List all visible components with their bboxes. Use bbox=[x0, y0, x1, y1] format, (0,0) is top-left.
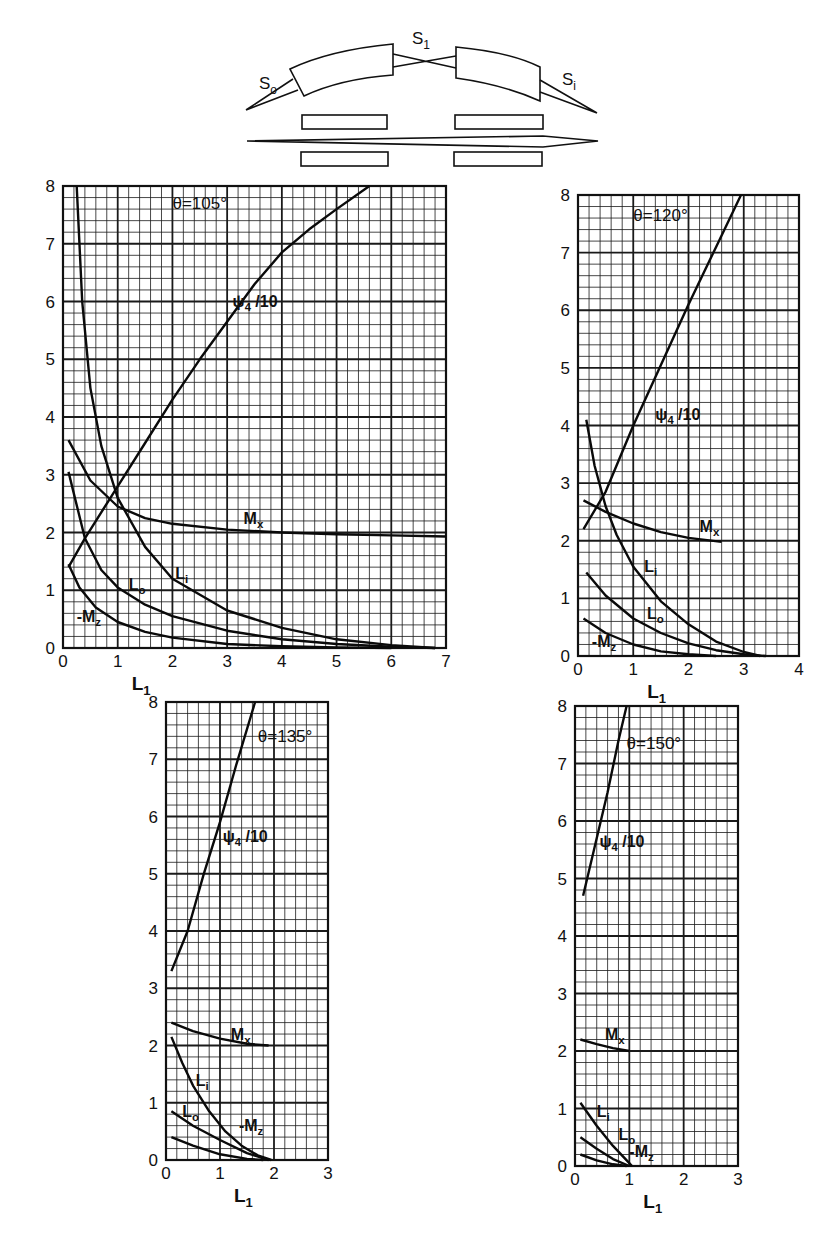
chart-title: θ=150° bbox=[627, 734, 682, 753]
x-tick-labels: 0123 bbox=[161, 1164, 332, 1183]
y-tick: 3 bbox=[561, 474, 570, 493]
y-tick: 1 bbox=[149, 1094, 158, 1113]
figure: So S1 Si 01234567012345678L1ψ4 /10LiMxLo… bbox=[0, 0, 837, 1237]
x-tick: 6 bbox=[387, 652, 396, 671]
series-label-l-i: Li bbox=[175, 565, 188, 585]
chart-theta-120: 01234012345678L1ψ4 /10LiMxLo-Mzθ=120° bbox=[561, 186, 804, 706]
curve-mz bbox=[580, 1155, 626, 1167]
label-middle: S1 bbox=[412, 29, 430, 52]
series-label-4-10: ψ4 /10 bbox=[599, 833, 644, 853]
y-tick: 8 bbox=[561, 186, 570, 205]
x-axis-label: L1 bbox=[234, 1185, 253, 1210]
y-tick: 6 bbox=[558, 812, 567, 831]
y-tick: 6 bbox=[149, 808, 158, 827]
y-tick: 4 bbox=[561, 417, 570, 436]
x-tick-labels: 01234 bbox=[573, 660, 803, 679]
y-tick-labels: 012345678 bbox=[558, 697, 567, 1176]
series-label-4-10: ψ4 /10 bbox=[223, 828, 268, 848]
x-axis-label: L1 bbox=[647, 681, 666, 706]
y-tick: 4 bbox=[149, 922, 158, 941]
series-label-mx: Mx bbox=[244, 510, 264, 530]
grid bbox=[575, 706, 738, 1166]
x-tick: 3 bbox=[222, 652, 231, 671]
series-label-mz: -Mz bbox=[629, 1143, 654, 1163]
x-tick: 1 bbox=[625, 1170, 634, 1189]
y-tick-labels: 012345678 bbox=[561, 186, 570, 666]
grid bbox=[63, 186, 446, 648]
chart-title: θ=135° bbox=[258, 727, 313, 746]
y-tick: 8 bbox=[46, 177, 55, 196]
chart-title: θ=120° bbox=[633, 206, 688, 225]
left-magnet-sector bbox=[290, 44, 393, 96]
chart-theta-105: 01234567012345678L1ψ4 /10LiMxLo-Mzθ=105° bbox=[46, 177, 451, 698]
y-tick: 7 bbox=[561, 244, 570, 263]
chart-title: θ=105° bbox=[172, 194, 227, 213]
grid bbox=[166, 702, 328, 1160]
x-tick: 0 bbox=[161, 1164, 170, 1183]
series-label-4-10: ψ4 /10 bbox=[655, 406, 700, 426]
x-tick: 1 bbox=[113, 652, 122, 671]
series-label-l-o: Lo bbox=[129, 576, 146, 596]
y-tick: 0 bbox=[558, 1157, 567, 1176]
lens-upper-right bbox=[455, 115, 543, 129]
x-tick: 2 bbox=[168, 652, 177, 671]
y-tick: 6 bbox=[561, 301, 570, 320]
series-label-l-i: Li bbox=[196, 1072, 209, 1092]
x-tick: 4 bbox=[277, 652, 286, 671]
series-label-mx: Mx bbox=[700, 518, 720, 538]
y-tick-labels: 012345678 bbox=[149, 693, 158, 1170]
x-axis-label: L1 bbox=[643, 1191, 662, 1216]
chart-theta-135: 0123012345678L1ψ4 /10LiMxLo-Mzθ=135° bbox=[149, 693, 333, 1210]
curve-l-i bbox=[586, 420, 760, 656]
series-label-4-10: ψ4 /10 bbox=[233, 293, 278, 313]
x-tick: 2 bbox=[684, 660, 693, 679]
y-tick: 7 bbox=[46, 235, 55, 254]
x-tick-labels: 0123 bbox=[570, 1170, 742, 1189]
y-tick-labels: 012345678 bbox=[46, 177, 55, 658]
x-tick-labels: 01234567 bbox=[58, 652, 450, 671]
label-source: So bbox=[259, 74, 277, 97]
y-tick: 3 bbox=[46, 466, 55, 485]
x-tick: 5 bbox=[332, 652, 341, 671]
x-tick: 1 bbox=[629, 660, 638, 679]
y-tick: 4 bbox=[46, 408, 55, 427]
y-tick: 5 bbox=[561, 359, 570, 378]
lens-lower-right bbox=[454, 152, 542, 166]
x-tick: 0 bbox=[58, 652, 67, 671]
x-tick: 1 bbox=[215, 1164, 224, 1183]
label-image: Si bbox=[562, 70, 576, 93]
series-label-mz: -Mz bbox=[77, 608, 102, 628]
y-tick: 0 bbox=[46, 639, 55, 658]
series-label-mz: -Mz bbox=[239, 1117, 264, 1137]
series-label-l-o: Lo bbox=[647, 605, 664, 625]
x-tick: 2 bbox=[269, 1164, 278, 1183]
y-tick: 1 bbox=[46, 581, 55, 600]
y-tick: 8 bbox=[149, 693, 158, 712]
y-tick: 2 bbox=[149, 1037, 158, 1056]
right-magnet-sector bbox=[456, 47, 540, 101]
y-tick: 1 bbox=[558, 1100, 567, 1119]
x-tick: 4 bbox=[794, 660, 803, 679]
spectrometer-schematic bbox=[246, 44, 598, 166]
y-tick: 7 bbox=[149, 750, 158, 769]
grid bbox=[578, 195, 799, 656]
x-tick: 0 bbox=[570, 1170, 579, 1189]
optical-axis-ray bbox=[247, 136, 598, 147]
y-tick: 5 bbox=[46, 350, 55, 369]
x-tick: 7 bbox=[441, 652, 450, 671]
chart-theta-150: 0123012345678L1ψ4 /10LiMxLo-Mzθ=150° bbox=[558, 697, 743, 1216]
y-tick: 0 bbox=[561, 647, 570, 666]
y-tick: 0 bbox=[149, 1151, 158, 1170]
x-tick: 3 bbox=[739, 660, 748, 679]
y-tick: 5 bbox=[149, 865, 158, 884]
y-tick: 5 bbox=[558, 870, 567, 889]
y-tick: 2 bbox=[558, 1042, 567, 1061]
y-tick: 4 bbox=[558, 927, 567, 946]
x-tick: 0 bbox=[573, 660, 582, 679]
x-tick: 3 bbox=[733, 1170, 742, 1189]
y-tick: 2 bbox=[46, 524, 55, 543]
crossover-ray bbox=[393, 54, 456, 68]
y-tick: 8 bbox=[558, 697, 567, 716]
y-tick: 1 bbox=[561, 589, 570, 608]
lens-upper-left bbox=[302, 115, 387, 129]
